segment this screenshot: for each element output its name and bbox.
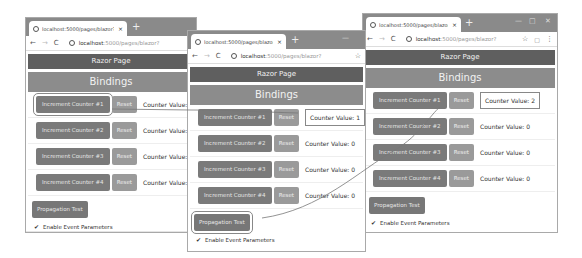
counter-row-3: Increment Counter #3 Reset Counter Value…: [190, 157, 363, 183]
razor-page-header: Razor Page: [190, 67, 363, 82]
browser-tab[interactable]: localhost:5000/pages/blazor? ×: [191, 34, 286, 49]
checkbox-checked-icon[interactable]: ✔: [196, 236, 201, 243]
tab-title: localhost:5000/pages/blazor?: [379, 22, 448, 28]
title-bar: localhost:5000/pages/blazor? × + —: [188, 31, 365, 49]
reset-counter-1-button[interactable]: Reset: [274, 109, 299, 126]
close-tab-icon[interactable]: ×: [452, 21, 457, 28]
browser-tab[interactable]: localhost:5000/pages/blazor? ×: [366, 17, 461, 32]
counter-value-3: Counter Value: 0: [305, 166, 355, 173]
close-tab-icon[interactable]: ×: [118, 25, 123, 32]
browser-tab[interactable]: localhost:5000/pages/blazor? ×: [29, 21, 127, 36]
forward-icon[interactable]: →: [42, 39, 48, 47]
minimize-icon[interactable]: —: [342, 34, 349, 42]
maximize-icon[interactable]: □: [529, 17, 536, 25]
counter-row-3: Increment Counter #3 Reset Counter Value…: [365, 140, 555, 166]
bookmark-star-icon[interactable]: ☆: [355, 52, 361, 60]
checkbox-label: Enable Event Parameters: [380, 220, 449, 226]
globe-icon: [370, 22, 376, 28]
address-bar: ← → C localhost:5000/pages/blazor?: [26, 36, 196, 51]
globe-icon: [195, 39, 201, 45]
new-tab-button[interactable]: +: [132, 21, 140, 33]
title-bar: localhost:5000/pages/blazor? × +: [26, 18, 196, 36]
reset-counter-1-button[interactable]: Reset: [112, 96, 137, 113]
new-tab-button[interactable]: +: [291, 34, 299, 46]
back-icon[interactable]: ←: [367, 35, 373, 43]
reset-counter-4-button[interactable]: Reset: [449, 170, 474, 187]
extension-icon[interactable]: ▢: [534, 36, 540, 43]
increment-counter-3-button[interactable]: Increment Counter #3: [36, 148, 110, 165]
forward-icon[interactable]: →: [204, 52, 210, 60]
increment-counter-1-button[interactable]: Increment Counter #1: [373, 92, 447, 109]
increment-counter-3-button[interactable]: Increment Counter #3: [198, 161, 272, 178]
counter-value-1: Counter Value: 2: [480, 92, 540, 109]
reset-counter-4-button[interactable]: Reset: [274, 187, 299, 204]
reset-counter-2-button[interactable]: Reset: [112, 122, 137, 139]
razor-page-header: Razor Page: [365, 50, 555, 65]
increment-counter-4-button[interactable]: Increment Counter #4: [373, 170, 447, 187]
razor-page-header: Razor Page: [28, 54, 194, 69]
propagation-test-button[interactable]: Propagation Test: [32, 201, 88, 218]
counter-value-1: Counter Value: 0: [143, 101, 193, 108]
counter-row-4: Increment Counter #4 Reset Counter Value…: [365, 166, 555, 192]
minimize-icon[interactable]: —: [515, 17, 522, 25]
menu-icon[interactable]: ⋮: [546, 35, 553, 43]
reset-counter-4-button[interactable]: Reset: [112, 174, 137, 191]
propagation-test-button[interactable]: Propagation Test: [194, 214, 250, 231]
back-icon[interactable]: ←: [192, 52, 198, 60]
globe-icon: [33, 26, 39, 32]
increment-counter-4-button[interactable]: Increment Counter #4: [36, 174, 110, 191]
reset-counter-2-button[interactable]: Reset: [449, 118, 474, 135]
counter-value-3: Counter Value: 0: [143, 153, 193, 160]
enable-event-parameters-checkbox[interactable]: ✔ Enable Event Parameters: [371, 219, 555, 226]
bindings-header: Bindings: [365, 68, 555, 88]
increment-counter-2-button[interactable]: Increment Counter #2: [36, 122, 110, 139]
forward-icon[interactable]: →: [379, 35, 385, 43]
reset-counter-3-button[interactable]: Reset: [112, 148, 137, 165]
browser-window-1: localhost:5000/pages/blazor? × + ← → C l…: [25, 17, 197, 233]
reset-counter-1-button[interactable]: Reset: [449, 92, 474, 109]
counter-value-2: Counter Value: 0: [305, 140, 355, 147]
counter-value-2: Counter Value: 0: [480, 123, 530, 130]
increment-counter-3-button[interactable]: Increment Counter #3: [373, 144, 447, 161]
counter-value-2: Counter Value: 0: [143, 127, 193, 134]
reload-icon[interactable]: C: [391, 35, 396, 43]
new-tab-button[interactable]: +: [465, 17, 473, 29]
close-window-icon[interactable]: ✕: [545, 17, 551, 25]
counter-value-1: Counter Value: 1: [305, 109, 365, 126]
increment-counter-2-button[interactable]: Increment Counter #2: [373, 118, 447, 135]
back-icon[interactable]: ←: [30, 39, 36, 47]
bookmark-star-icon[interactable]: ☆: [522, 35, 528, 43]
bindings-header: Bindings: [190, 85, 363, 105]
close-tab-icon[interactable]: ×: [277, 38, 282, 45]
increment-counter-2-button[interactable]: Increment Counter #2: [198, 135, 272, 152]
counter-value-3: Counter Value: 0: [480, 149, 530, 156]
counter-row-4: Increment Counter #4 Reset Counter Value…: [190, 183, 363, 209]
checkbox-checked-icon[interactable]: ✔: [371, 219, 376, 226]
counter-row-2: Increment Counter #2 Reset Counter Value…: [190, 131, 363, 157]
enable-event-parameters-checkbox[interactable]: ✔ Enable Event Parameters: [196, 236, 363, 243]
tab-title: localhost:5000/pages/blazor?: [42, 26, 114, 32]
url-field[interactable]: localhost:5000/pages/blazor?: [241, 53, 322, 59]
reset-counter-2-button[interactable]: Reset: [274, 135, 299, 152]
reload-icon[interactable]: C: [216, 52, 221, 60]
info-icon[interactable]: [231, 53, 237, 59]
increment-counter-1-button[interactable]: Increment Counter #1: [36, 96, 110, 113]
checkbox-label: Enable Event Parameters: [205, 237, 274, 243]
page-content: Razor Page Bindings Increment Counter #1…: [26, 52, 196, 232]
url-field[interactable]: localhost:5000/pages/blazor?: [79, 40, 160, 46]
page-content: Razor Page Bindings Increment Counter #1…: [363, 48, 557, 232]
propagation-test-button[interactable]: Propagation Test: [369, 197, 425, 214]
increment-counter-4-button[interactable]: Increment Counter #4: [198, 187, 272, 204]
enable-event-parameters-checkbox[interactable]: ✔ Enable Event Parameters: [34, 223, 194, 230]
checkbox-checked-icon[interactable]: ✔: [34, 223, 39, 230]
url-field[interactable]: localhost:5000/pages/blazor?: [416, 36, 497, 42]
info-icon[interactable]: [406, 36, 412, 42]
reset-counter-3-button[interactable]: Reset: [274, 161, 299, 178]
title-bar: localhost:5000/pages/blazor? × + — □ ✕: [363, 14, 557, 32]
reload-icon[interactable]: C: [54, 39, 59, 47]
checkbox-label: Enable Event Parameters: [43, 224, 112, 230]
info-icon[interactable]: [69, 40, 75, 46]
increment-counter-1-button[interactable]: Increment Counter #1: [198, 109, 272, 126]
reset-counter-3-button[interactable]: Reset: [449, 144, 474, 161]
address-bar: ← → C localhost:5000/pages/blazor? ☆: [188, 49, 365, 64]
